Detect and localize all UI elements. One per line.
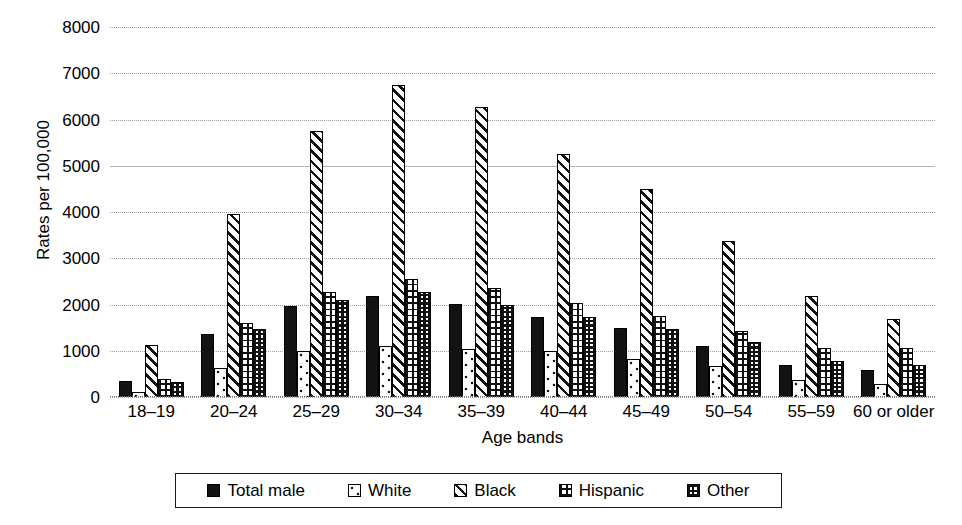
x-axis-tick-label: 45–49 xyxy=(605,401,688,427)
bar xyxy=(805,296,818,397)
legend-item[interactable]: Total male xyxy=(207,482,304,499)
bar xyxy=(583,317,596,397)
bar-group xyxy=(275,27,358,397)
bar xyxy=(531,317,544,397)
bar xyxy=(887,319,900,397)
bar xyxy=(900,348,913,397)
y-axis-tick-label: 2000 xyxy=(38,296,100,313)
x-axis-line xyxy=(110,396,935,397)
bar xyxy=(405,279,418,397)
bar xyxy=(284,306,297,397)
bar xyxy=(227,214,240,397)
bar xyxy=(310,131,323,397)
legend-swatch-icon xyxy=(348,484,361,497)
x-axis-tick-label: 60 or older xyxy=(853,401,936,427)
bar-group xyxy=(110,27,193,397)
x-axis-tick-label: 20–24 xyxy=(193,401,276,427)
bar xyxy=(253,329,266,397)
bar xyxy=(831,361,844,397)
legend-label: Hispanic xyxy=(579,482,644,499)
legend-item[interactable]: White xyxy=(348,482,411,499)
bar xyxy=(666,329,679,397)
y-axis-tick-label: 3000 xyxy=(38,250,100,267)
bar xyxy=(366,296,379,397)
bar xyxy=(171,382,184,397)
x-axis-tick-label: 25–29 xyxy=(275,401,358,427)
x-axis-tick-labels: 18–1920–2425–2930–3435–3940–4445–4950–54… xyxy=(110,401,935,427)
bar xyxy=(557,154,570,397)
bar-group xyxy=(688,27,771,397)
bar xyxy=(240,323,253,397)
bar-group xyxy=(440,27,523,397)
x-axis-tick-label: 35–39 xyxy=(440,401,523,427)
bar-group xyxy=(770,27,853,397)
x-axis-title: Age bands xyxy=(110,428,935,448)
legend-item[interactable]: Other xyxy=(687,482,750,499)
bar xyxy=(653,316,666,397)
legend-label: Other xyxy=(707,482,750,499)
bar xyxy=(792,380,805,397)
bar xyxy=(297,351,310,397)
x-axis-tick-label: 50–54 xyxy=(688,401,771,427)
bar xyxy=(627,359,640,397)
bar-group xyxy=(853,27,936,397)
x-axis-tick-label: 55–59 xyxy=(770,401,853,427)
legend-item[interactable]: Black xyxy=(454,482,516,499)
bar xyxy=(323,292,336,397)
bar xyxy=(462,349,475,397)
legend: Total maleWhiteBlackHispanicOther xyxy=(175,473,782,508)
bar xyxy=(379,346,392,397)
bar xyxy=(779,365,792,397)
y-axis-tick-label: 4000 xyxy=(38,204,100,221)
grouped-bar-chart: Rates per 100,000 8000700060005000400030… xyxy=(0,0,962,525)
bar xyxy=(861,370,874,397)
x-axis-tick-label: 18–19 xyxy=(110,401,193,427)
legend-label: Total male xyxy=(227,482,304,499)
bar-group xyxy=(358,27,441,397)
legend-label: Black xyxy=(474,482,516,499)
bar xyxy=(748,342,761,397)
gridline xyxy=(110,397,935,398)
bar-groups xyxy=(110,27,935,397)
bar xyxy=(544,351,557,397)
y-axis-tick-label: 6000 xyxy=(38,111,100,128)
bar xyxy=(696,346,709,397)
bar xyxy=(614,328,627,397)
bar xyxy=(709,366,722,397)
x-axis-tick-label: 30–34 xyxy=(358,401,441,427)
bar-group xyxy=(605,27,688,397)
x-axis-tick-label: 40–44 xyxy=(523,401,606,427)
bar-group xyxy=(523,27,606,397)
bar xyxy=(418,292,431,397)
bar xyxy=(336,300,349,397)
legend-swatch-icon xyxy=(687,484,700,497)
y-axis-tick-label: 0 xyxy=(38,389,100,406)
bar xyxy=(818,348,831,397)
bar xyxy=(501,305,514,398)
y-axis-tick-labels: 800070006000500040003000200010000 xyxy=(38,0,100,525)
bar xyxy=(158,379,171,397)
bar xyxy=(488,288,501,397)
bar xyxy=(570,303,583,397)
y-axis-tick-label: 7000 xyxy=(38,65,100,82)
legend-swatch-icon xyxy=(559,484,572,497)
bar xyxy=(722,241,735,397)
bar xyxy=(214,368,227,397)
y-axis-tick-label: 5000 xyxy=(38,157,100,174)
bar xyxy=(119,381,132,397)
bar xyxy=(145,345,158,397)
y-axis-tick-label: 1000 xyxy=(38,342,100,359)
legend-item[interactable]: Hispanic xyxy=(559,482,644,499)
legend-swatch-icon xyxy=(207,484,220,497)
bar xyxy=(449,304,462,397)
bar xyxy=(640,189,653,397)
bar xyxy=(913,365,926,397)
bar-group xyxy=(193,27,276,397)
plot-area xyxy=(110,27,935,397)
bar xyxy=(874,384,887,397)
legend-swatch-icon xyxy=(454,484,467,497)
bar xyxy=(735,331,748,397)
y-axis-tick-label: 8000 xyxy=(38,19,100,36)
bar xyxy=(201,334,214,397)
legend-label: White xyxy=(368,482,411,499)
